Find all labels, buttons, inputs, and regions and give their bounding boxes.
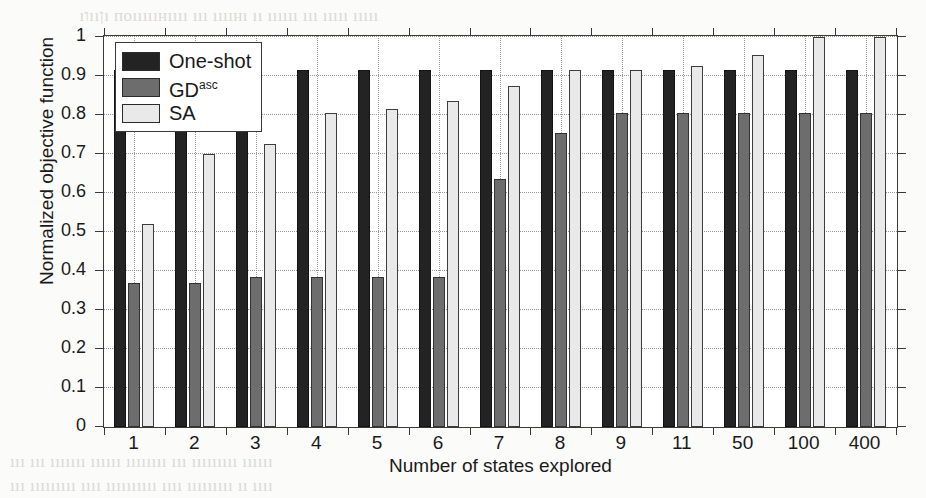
bar-sa-9 [630,70,642,427]
y-axis-tick [897,231,906,232]
x-axis-tick-top [591,28,592,36]
y-axis-tick-label: 0.8 [46,103,86,124]
y-axis-tick-label: 0 [46,415,86,436]
bar-gdasc-9 [616,113,628,427]
scan-bleed-bottom-2: ııı ııııııııı ıııı ıııııııııı ıııı ııııı… [10,476,926,496]
bar-sa-5 [386,109,398,427]
x-axis-tick-label: 100 [774,432,834,454]
x-axis-tick-top [165,28,166,36]
bar-one-shot-6 [419,70,431,427]
bar-gdasc-3 [250,277,262,427]
legend-swatch-icon [122,78,160,97]
y-axis-tick-label: 0.7 [46,142,86,163]
plot-area: 00.10.20.30.40.50.60.70.80.91 One-shotGD… [103,35,898,428]
x-axis-tick-label: 4 [286,432,346,454]
x-axis-tick-top [470,28,471,36]
bar-gdasc-8 [555,133,567,427]
bar-sa-7 [508,86,520,427]
y-axis-tick-label: 0.3 [46,298,86,319]
bar-sa-6 [447,101,459,427]
y-axis-tick-label: 0.2 [46,337,86,358]
x-axis-tick-label: 1 [103,432,163,454]
bar-chart-figure: Normalized objective function Number of … [0,0,926,498]
chart-legend: One-shotGDascSA [115,42,262,132]
y-axis-tick-label: 0.1 [46,376,86,397]
bar-gdasc-50 [738,113,750,427]
x-axis-tick-label: 11 [652,432,712,454]
y-axis-tick [897,426,906,427]
bar-one-shot-7 [480,70,492,427]
bar-sa-3 [264,144,276,427]
bar-gdasc-1 [128,283,140,427]
x-axis-tick-label: 2 [164,432,224,454]
y-axis-tick [897,36,906,37]
y-axis-tick [897,75,906,76]
y-axis-tick-label: 0.6 [46,181,86,202]
x-axis-tick-top [774,28,775,36]
bar-sa-1 [142,224,154,427]
bar-sa-4 [325,113,337,427]
y-axis-tick [897,348,906,349]
bar-one-shot-5 [358,70,370,427]
bar-gdasc-2 [189,283,201,427]
legend-label: SA [169,103,196,123]
bar-gdasc-5 [372,277,384,427]
bar-sa-100 [813,37,825,427]
x-axis-tick-top [287,28,288,36]
x-axis-tick-label: 5 [347,432,407,454]
x-axis-tick-top [348,28,349,36]
bar-gdasc-6 [433,277,445,427]
legend-item-gd: GDasc [122,74,251,100]
x-axis-tick-label: 400 [835,432,895,454]
x-axis-tick-top [835,28,836,36]
legend-label: One-shot [169,51,251,71]
y-axis-tick-label: 1 [46,25,86,46]
x-axis-tick-top [652,28,653,36]
x-axis-tick [896,427,897,435]
y-axis-tick [95,114,104,115]
bar-gdasc-11 [677,113,689,427]
x-axis-tick-label: 3 [225,432,285,454]
scan-bleed-bottom-1: ııı ııı ııııııı ıııııı ıııııııı ııı ıııı… [10,452,926,472]
x-axis-tick-label: 8 [530,432,590,454]
bar-gdasc-4 [311,277,323,427]
x-axis-tick-top [896,28,897,36]
bar-one-shot-400 [846,70,858,427]
bar-one-shot-8 [541,70,553,427]
y-axis-tick [95,75,104,76]
y-axis-tick [897,387,906,388]
y-axis-tick [897,153,906,154]
y-axis-tick [95,309,104,310]
bar-gdasc-100 [799,113,811,427]
bar-gdasc-7 [494,179,506,427]
y-axis-tick [897,114,906,115]
y-axis-tick-label: 0.9 [46,64,86,85]
y-axis-tick [897,309,906,310]
x-axis-tick-label: 7 [469,432,529,454]
y-axis-tick [95,426,104,427]
y-axis-tick-label: 0.4 [46,259,86,280]
x-axis-tick-top [409,28,410,36]
legend-label-superscript: asc [199,78,218,92]
x-axis-tick-label: 50 [713,432,773,454]
bar-one-shot-100 [785,70,797,427]
bar-sa-11 [691,66,703,427]
y-axis-tick [95,270,104,271]
y-axis-tick [95,348,104,349]
legend-item-sa: SA [122,100,251,126]
y-axis-tick [897,192,906,193]
y-axis-tick [95,36,104,37]
bar-sa-8 [569,70,581,427]
legend-swatch-icon [122,104,160,123]
x-axis-tick-label: 9 [591,432,651,454]
y-axis-tick [95,192,104,193]
bar-sa-2 [203,154,215,427]
legend-swatch-icon [122,52,160,71]
x-axis-tick-top [713,28,714,36]
legend-item-one-shot: One-shot [122,48,251,74]
y-axis-tick-label: 0.5 [46,220,86,241]
x-axis-tick-top [104,28,105,36]
y-axis-tick [897,270,906,271]
bar-gdasc-400 [860,113,872,427]
y-axis-tick [95,231,104,232]
